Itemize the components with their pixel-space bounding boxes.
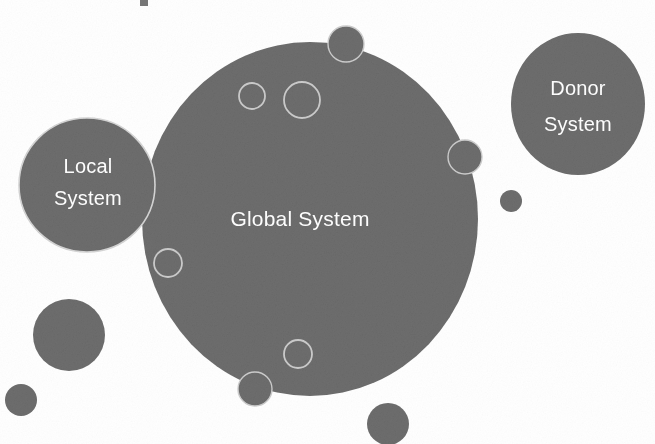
donor-system-label-line1: Donor xyxy=(550,77,606,99)
right-edge-satellite-bubble[interactable] xyxy=(448,140,482,174)
donor-system-bubble[interactable] xyxy=(511,33,645,175)
free-satellite-small-left-bubble[interactable] xyxy=(5,384,37,416)
free-satellite-lower-left-bubble[interactable] xyxy=(33,299,105,371)
local-system-label-line1: Local xyxy=(64,155,113,177)
local-system-label-line2: System xyxy=(54,187,122,209)
diagram-canvas: Global System Local System Donor System xyxy=(0,0,655,444)
free-satellite-bottom-bubble[interactable] xyxy=(367,403,409,444)
scan-artifact-mark xyxy=(140,0,148,6)
free-satellite-right-bubble[interactable] xyxy=(500,190,522,212)
donor-system-label-line2: System xyxy=(544,113,612,135)
global-system-label: Global System xyxy=(230,207,369,230)
top-edge-satellite-bubble[interactable] xyxy=(328,26,364,62)
bottom-edge-satellite-bubble[interactable] xyxy=(238,372,272,406)
bubble-diagram: Global System Local System Donor System xyxy=(0,0,655,444)
